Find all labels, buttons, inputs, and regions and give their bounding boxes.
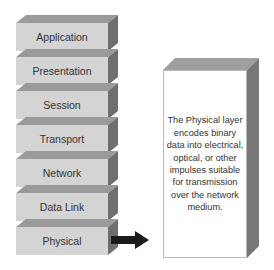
layer-presentation: Presentation	[16, 57, 108, 85]
layer-top-face	[16, 49, 118, 57]
layer-top-face	[16, 117, 118, 125]
arrow-right-icon	[111, 231, 149, 249]
description-text: The Physical layer encodes binary data i…	[163, 70, 247, 258]
layer-top-face	[16, 83, 118, 91]
layer-application: Application	[16, 23, 108, 51]
box-top-face	[163, 58, 259, 70]
layer-label: Session	[16, 91, 108, 119]
layer-label: Application	[16, 23, 108, 51]
layer-label: Network	[16, 159, 108, 187]
layer-top-face	[16, 15, 118, 23]
layer-top-face	[16, 151, 118, 159]
layer-top-face	[16, 219, 118, 227]
layer-session: Session	[16, 91, 108, 119]
box-side-face	[247, 58, 259, 258]
layer-top-face	[16, 185, 118, 193]
description-box: The Physical layer encodes binary data i…	[163, 70, 247, 258]
layer-transport: Transport	[16, 125, 108, 153]
layer-label: Data Link	[16, 193, 108, 221]
layer-label: Physical	[16, 227, 108, 255]
layer-network: Network	[16, 159, 108, 187]
layer-data-link: Data Link	[16, 193, 108, 221]
layer-label: Transport	[16, 125, 108, 153]
layer-label: Presentation	[16, 57, 108, 85]
layer-physical: Physical	[16, 227, 108, 255]
